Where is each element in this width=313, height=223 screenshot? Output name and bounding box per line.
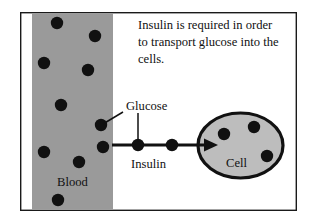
cell-label: Cell bbox=[226, 156, 247, 170]
insulin-glucose-diagram: Insulin is required in order to transpor… bbox=[0, 0, 313, 223]
glucose-dot bbox=[95, 119, 107, 131]
blood-label: Blood bbox=[57, 175, 88, 189]
glucose-dot bbox=[38, 146, 50, 158]
insulin-label: Insulin bbox=[131, 157, 167, 171]
glucose-dot bbox=[97, 141, 109, 153]
glucose-dot bbox=[51, 17, 63, 29]
description-line-1: Insulin is required in order bbox=[138, 18, 273, 32]
glucose-dot bbox=[89, 30, 101, 42]
glucose-dot bbox=[248, 121, 260, 133]
glucose-dot bbox=[73, 156, 85, 168]
glucose-dot bbox=[55, 99, 67, 111]
glucose-dot bbox=[52, 194, 64, 206]
glucose-dot bbox=[261, 150, 273, 162]
glucose-dot bbox=[218, 128, 230, 140]
glucose-dot bbox=[166, 139, 178, 151]
glucose-label: Glucose bbox=[126, 99, 168, 113]
glucose-dot bbox=[82, 64, 94, 76]
glucose-dot bbox=[38, 57, 50, 69]
description-line-2: to transport glucose into the bbox=[138, 35, 279, 49]
description-line-3: cells. bbox=[138, 52, 164, 66]
